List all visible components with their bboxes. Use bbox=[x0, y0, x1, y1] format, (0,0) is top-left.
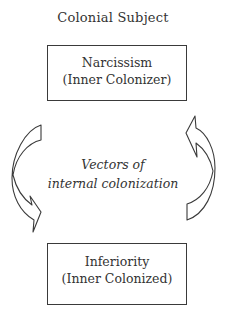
inferiority-label: Inferiority bbox=[48, 253, 186, 270]
inferiority-box: Inferiority (Inner Colonized) bbox=[47, 243, 187, 305]
right-up-arrow-icon bbox=[186, 116, 215, 220]
left-down-arrow-icon bbox=[12, 125, 41, 232]
inner-colonized-label: (Inner Colonized) bbox=[48, 270, 186, 287]
